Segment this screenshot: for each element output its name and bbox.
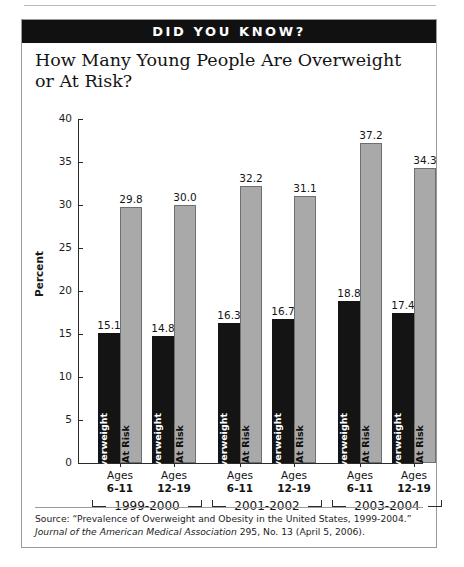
age-label-line2: 12-19 [264, 482, 324, 495]
bar-value-label: 34.3 [407, 154, 443, 166]
x-tick-mark [120, 463, 121, 467]
x-axis-age-label: Ages12-19 [384, 469, 444, 495]
age-label-line2: 12-19 [384, 482, 444, 495]
source-divider [35, 507, 423, 508]
y-tick-label: 5 [22, 413, 72, 425]
bar-at-risk: At Risk [414, 168, 436, 463]
chart-plot-area: 0510152025303540 Percent Overweight15.1A… [22, 20, 436, 549]
bar-value-label: 30.0 [167, 191, 203, 203]
bar-at-risk: At Risk [174, 205, 196, 463]
x-axis-age-label: Ages12-19 [264, 469, 324, 495]
year-range-label: 2001-2002 [234, 499, 299, 513]
bar-series-label: At Risk [120, 425, 131, 463]
x-tick-mark [294, 463, 295, 467]
x-axis-age-label: Ages6-11 [330, 469, 390, 495]
age-label-line1: Ages [227, 469, 253, 481]
page-top-rule [24, 5, 436, 6]
y-axis-label: Percent [33, 239, 45, 309]
x-tick-mark [174, 463, 175, 467]
x-tick-mark [360, 463, 361, 467]
age-label-line2: 6-11 [90, 482, 150, 495]
age-label-line1: Ages [347, 469, 373, 481]
y-tick-label: 15 [22, 327, 72, 339]
bar-at-risk: At Risk [294, 196, 316, 463]
y-tick-label: 35 [22, 155, 72, 167]
bar-series-label: At Risk [360, 425, 371, 463]
age-label-line2: 6-11 [330, 482, 390, 495]
y-tick-label: 20 [22, 284, 72, 296]
bar-value-label: 37.2 [353, 129, 389, 141]
bar-value-label: 32.2 [233, 172, 269, 184]
x-tick-mark [240, 463, 241, 467]
bar-overweight: Overweight [98, 333, 120, 463]
bar-series-label: At Risk [294, 425, 305, 463]
bar-overweight: Overweight [152, 336, 174, 463]
source-note: Source: “Prevalence of Overweight and Ob… [35, 513, 425, 538]
age-label-line2: 12-19 [144, 482, 204, 495]
bar-overweight: Overweight [218, 323, 240, 463]
y-tick-label: 30 [22, 198, 72, 210]
bar-overweight: Overweight [272, 319, 294, 463]
age-label-line2: 6-11 [210, 482, 270, 495]
bar-overweight: Overweight [392, 313, 414, 463]
did-you-know-card: DID YOU KNOW? How Many Young People Are … [21, 19, 437, 548]
bar-series-label: At Risk [414, 425, 425, 463]
x-axis-age-label: Ages12-19 [144, 469, 204, 495]
bar-at-risk: At Risk [240, 186, 262, 463]
y-tick-label: 10 [22, 370, 72, 382]
source-line-2-rest: 295, No. 13 (April 5, 2006). [237, 526, 365, 537]
bar-overweight: Overweight [338, 301, 360, 463]
source-line-1: Source: “Prevalence of Overweight and Ob… [35, 513, 411, 524]
x-axis-age-label: Ages6-11 [90, 469, 150, 495]
bar-at-risk: At Risk [120, 207, 142, 463]
bracket-line-right [428, 506, 442, 507]
x-tick-mark [414, 463, 415, 467]
age-label-line1: Ages [281, 469, 307, 481]
bar-value-label: 31.1 [287, 182, 323, 194]
age-label-line1: Ages [161, 469, 187, 481]
bar-value-label: 29.8 [113, 193, 149, 205]
bar-at-risk: At Risk [360, 143, 382, 463]
year-range-label: 1999-2000 [114, 499, 179, 513]
bar-series-label: At Risk [240, 425, 251, 463]
y-tick-label: 25 [22, 241, 72, 253]
age-label-line1: Ages [107, 469, 133, 481]
source-journal-name: Journal of the American Medical Associat… [35, 526, 237, 537]
y-tick-label: 0 [22, 456, 72, 468]
bar-series-label: At Risk [174, 425, 185, 463]
x-axis-age-label: Ages6-11 [210, 469, 270, 495]
y-tick-label: 40 [22, 112, 72, 124]
age-label-line1: Ages [401, 469, 427, 481]
year-range-label: 2003-2004 [354, 499, 419, 513]
bars-container: Overweight15.1At Risk29.8Overweight14.8A… [78, 119, 423, 463]
